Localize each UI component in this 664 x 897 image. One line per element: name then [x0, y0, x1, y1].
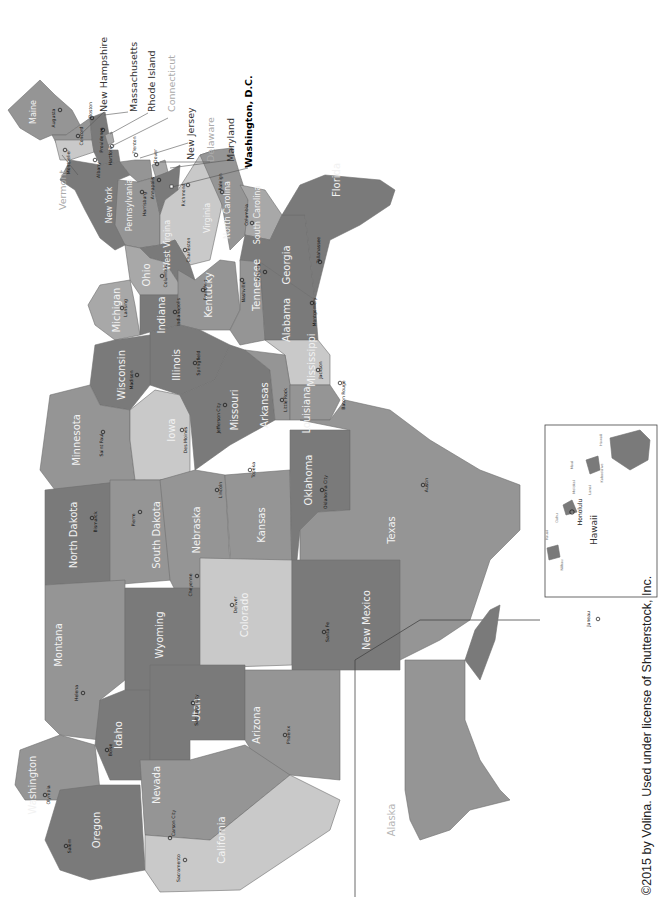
label-washington: Washington — [27, 756, 38, 815]
capital-nashville: Nashville — [240, 278, 246, 302]
label-wisconsin: Wisconsin — [116, 350, 127, 400]
capital-jackson: Jackson — [316, 361, 323, 380]
svg-text:Indianapolis: Indianapolis — [176, 298, 181, 326]
capital-trenton: Trenton — [132, 136, 138, 156]
label-new-york: New York — [105, 186, 114, 223]
svg-text:Niihau: Niihau — [560, 559, 564, 570]
svg-text:Austin: Austin — [424, 478, 429, 493]
svg-text:Sacramento: Sacramento — [176, 854, 181, 882]
callout-new-hampshire: New Hampshire — [98, 37, 109, 112]
svg-text:Richmond: Richmond — [181, 183, 186, 206]
state-new-mexico[interactable] — [292, 560, 400, 670]
island-kauai — [547, 545, 560, 560]
us-states-map: Maine New York Pennsylvania Virginia Wes… — [0, 0, 664, 897]
svg-text:Nashville: Nashville — [241, 281, 246, 302]
svg-text:Harrisburg: Harrisburg — [142, 192, 147, 216]
label-pennsylvania: Pennsylvania — [125, 179, 134, 232]
capital-tallahassee: Tallahassee — [316, 237, 322, 265]
callout-new-jersey: New Jersey — [185, 107, 196, 160]
svg-text:Salt Lake City: Salt Lake City — [194, 694, 199, 726]
svg-text:Raleigh: Raleigh — [218, 173, 223, 190]
label-oklahoma: Oklahoma — [303, 455, 314, 506]
svg-text:Providence: Providence — [99, 127, 104, 152]
capital-harrisburg: Harrisburg — [140, 190, 147, 216]
svg-text:Dover: Dover — [153, 149, 158, 163]
svg-text:Des Moines: Des Moines — [183, 426, 188, 453]
svg-text:Hawaii: Hawaii — [599, 434, 603, 446]
state-louisiana[interactable] — [290, 385, 340, 420]
svg-text:Jackson: Jackson — [318, 361, 323, 380]
dc-marker-icon — [170, 185, 173, 188]
capital-raleigh: Raleigh — [218, 173, 224, 193]
label-georgia: Georgia — [281, 245, 292, 284]
capital-dover: Dover — [153, 149, 159, 166]
label-maine: Maine — [29, 100, 38, 124]
capital-juneau: Juneau — [586, 611, 600, 628]
svg-text:Atlanta: Atlanta — [256, 264, 261, 281]
svg-text:Juneau: Juneau — [586, 611, 591, 628]
state-vermont[interactable] — [55, 140, 94, 160]
capital-boston: Boston — [88, 102, 94, 120]
svg-text:Charleston: Charleston — [186, 237, 191, 262]
label-north-carolina: North Carolina — [223, 181, 232, 239]
label-colorado: Colorado — [239, 593, 250, 638]
svg-text:Bismarck: Bismarck — [93, 511, 98, 532]
label-ohio: Ohio — [141, 263, 152, 286]
svg-text:Helena: Helena — [74, 685, 79, 701]
svg-text:Phoenix: Phoenix — [286, 726, 291, 745]
svg-text:Annapolis: Annapolis — [150, 176, 155, 199]
svg-text:Cheyenne: Cheyenne — [188, 573, 193, 596]
capital-providence: Providence — [99, 127, 105, 152]
state-alaska[interactable] — [405, 660, 510, 840]
svg-text:Augusta: Augusta — [51, 108, 56, 127]
label-arkansas: Arkansas — [259, 382, 270, 428]
label-louisiana: Louisiana — [301, 386, 312, 433]
state-hawaii-big-island[interactable] — [610, 430, 650, 470]
svg-text:Boise: Boise — [108, 744, 113, 757]
label-oregon: Oregon — [91, 812, 102, 849]
svg-text:Pierre: Pierre — [131, 513, 136, 526]
svg-text:Carson City: Carson City — [171, 809, 176, 836]
label-virginia: Virginia — [203, 203, 212, 233]
svg-text:Trenton: Trenton — [132, 136, 137, 154]
svg-text:Kauai: Kauai — [545, 530, 549, 540]
svg-text:Montgomery: Montgomery — [312, 297, 317, 326]
state-maine[interactable] — [8, 80, 80, 140]
svg-text:Maui: Maui — [570, 461, 574, 469]
label-wyoming: Wyoming — [154, 612, 165, 659]
label-hawaii: Hawaii — [589, 515, 599, 545]
svg-text:Molokai: Molokai — [572, 480, 576, 493]
island-maui — [586, 456, 600, 474]
svg-text:Jefferson City: Jefferson City — [216, 402, 221, 434]
capital-baton-rouge: Baton Rouge — [338, 380, 346, 410]
label-nebraska: Nebraska — [191, 506, 202, 553]
callout-massachusetts: Massachusetts — [128, 42, 139, 112]
label-west-virginia: West Virgina — [163, 220, 172, 270]
label-new-mexico: New Mexico — [361, 590, 372, 650]
svg-text:Tallahassee: Tallahassee — [316, 237, 321, 265]
label-alaska: Alaska — [386, 804, 397, 837]
label-idaho: Idaho — [113, 721, 124, 749]
label-nevada: Nevada — [151, 766, 162, 804]
svg-text:Albany: Albany — [96, 162, 101, 178]
svg-text:Denver: Denver — [233, 597, 238, 614]
copyright-notice: ©2015 by Volina. Used under license of S… — [640, 576, 654, 895]
label-indiana: Indiana — [156, 296, 167, 333]
svg-text:Columbus: Columbus — [163, 264, 168, 288]
svg-text:Baton Rouge: Baton Rouge — [341, 380, 346, 410]
callout-delaware: Delaware — [205, 117, 216, 162]
svg-text:Lanai: Lanai — [588, 485, 592, 494]
svg-text:Oklahoma City: Oklahoma City — [323, 475, 328, 509]
svg-text:Honolulu: Honolulu — [576, 499, 583, 526]
state-iowa[interactable] — [130, 390, 190, 480]
callout-rhode-island: Rhode Island — [146, 50, 157, 112]
label-illinois: Illinois — [171, 349, 182, 381]
svg-text:Little Rock: Little Rock — [283, 388, 288, 412]
label-mississippi: Mississippi — [306, 333, 317, 386]
label-texas: Texas — [386, 516, 397, 545]
svg-text:Santa Fe: Santa Fe — [325, 622, 330, 642]
label-iowa: Iowa — [166, 418, 177, 441]
svg-text:Salem: Salem — [67, 838, 72, 853]
label-alabama: Alabama — [281, 298, 292, 342]
svg-text:Oahu: Oahu — [555, 513, 559, 522]
